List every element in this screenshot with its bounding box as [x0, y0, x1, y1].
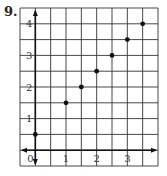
grid: [20, 8, 158, 166]
tick-labels: 01231234: [26, 18, 131, 164]
scatter-plot: 01231234: [0, 0, 167, 176]
svg-text:1: 1: [26, 113, 32, 124]
svg-text:0: 0: [27, 153, 33, 164]
axes: [21, 10, 157, 165]
data-point: [140, 21, 145, 26]
svg-text:2: 2: [26, 82, 32, 93]
svg-text:4: 4: [26, 18, 32, 29]
svg-text:3: 3: [124, 153, 130, 164]
svg-text:2: 2: [93, 153, 99, 164]
data-point: [79, 85, 84, 90]
svg-text:3: 3: [26, 50, 32, 61]
data-point: [94, 69, 99, 74]
data-point: [33, 132, 38, 137]
data-point: [64, 100, 69, 105]
svg-text:1: 1: [63, 153, 69, 164]
data-point: [110, 53, 115, 58]
data-point: [125, 37, 130, 42]
data-points: [33, 21, 145, 136]
